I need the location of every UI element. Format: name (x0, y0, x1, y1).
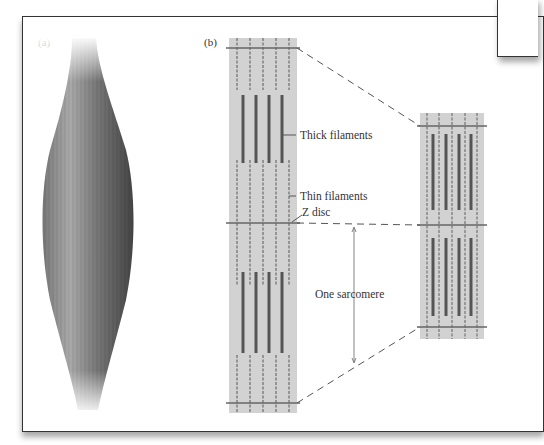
myofibril-two-sarcomeres (226, 38, 300, 413)
myofibril-contracted (417, 113, 487, 339)
panel-b-label: (b) (204, 36, 217, 49)
z-disc-label: Z disc (302, 206, 330, 218)
thin-filaments-label: Thin filaments (300, 190, 368, 202)
thick-filaments-label: Thick filaments (300, 129, 373, 141)
muscle-illustration (36, 36, 140, 416)
one-sarcomere-label: One sarcomere (315, 288, 384, 300)
zoom-connector-lines (297, 48, 420, 403)
